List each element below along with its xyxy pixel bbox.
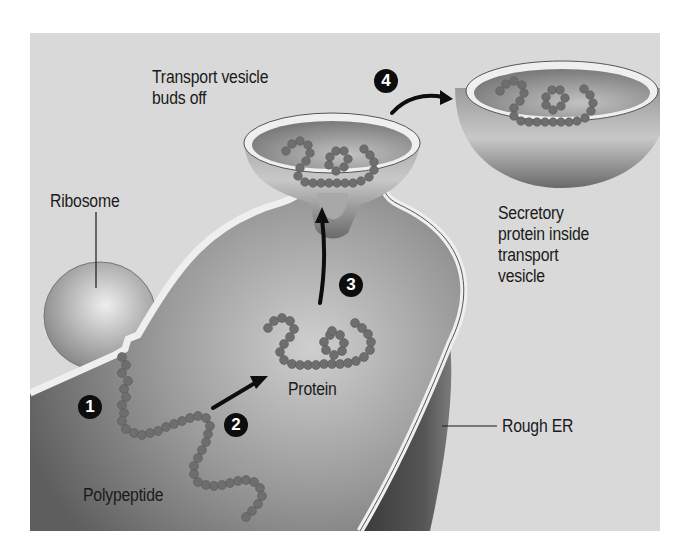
label-ribosome: Ribosome: [50, 191, 119, 212]
arrow-step-4: [392, 96, 443, 113]
step-4-badge: 4: [374, 69, 398, 93]
step-3-badge: 3: [339, 273, 363, 297]
diagram-panel: Transport vesicle buds off Ribosome Secr…: [30, 33, 660, 531]
label-rough-er: Rough ER: [502, 416, 573, 437]
step-1-badge: 1: [78, 395, 102, 419]
label-secretory-protein: Secretory protein inside transport vesic…: [498, 203, 589, 287]
label-polypeptide: Polypeptide: [83, 485, 163, 506]
step-2-badge: 2: [224, 413, 248, 437]
label-transport-vesicle-buds-off: Transport vesicle buds off: [152, 67, 268, 109]
label-protein: Protein: [288, 379, 337, 400]
arrowhead-step-4: [440, 90, 453, 105]
